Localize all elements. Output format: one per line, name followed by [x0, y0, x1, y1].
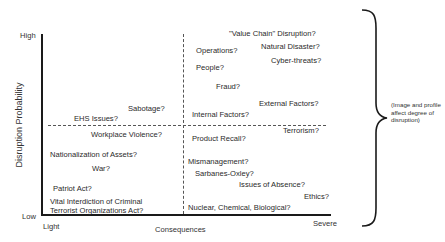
- risk-label-internal-factors: Internal Factors?: [192, 110, 249, 119]
- curly-brace-icon: [360, 8, 390, 228]
- y-axis-title: Disruption Probability: [14, 82, 24, 167]
- risk-label-natural-disaster: Natural Disaster?: [261, 42, 320, 51]
- risk-label-mismanagement: Mismanagement?: [188, 157, 248, 166]
- y-axis-high-label: High: [20, 31, 36, 40]
- x-axis-title: Consequences: [155, 225, 206, 234]
- x-axis-severe-label: Severe: [313, 219, 337, 228]
- brace-note: (Image and profile affect degree of disr…: [391, 101, 441, 124]
- risk-label-ehs-issues: EHS Issues?: [74, 114, 118, 123]
- risk-label-product-recall: Product Recall?: [192, 134, 246, 143]
- risk-label-external-factors: External Factors?: [259, 99, 319, 108]
- y-axis-low-label: Low: [22, 212, 36, 221]
- risk-label-sabotage: Sabotage?: [128, 104, 165, 113]
- risk-label-workplace-violence: Workplace Violence?: [91, 130, 162, 139]
- risk-label-vital-interdiction-line2: Terrorist Organizations Act?: [50, 206, 143, 215]
- risk-label-fraud: Fraud?: [216, 82, 240, 91]
- x-axis-light-label: Light: [43, 222, 59, 231]
- risk-label-value-chain-disruption: "Value Chain" Disruption?: [229, 29, 316, 38]
- risk-label-operations: Operations?: [196, 46, 237, 55]
- risk-label-nationalization-of-assets: Nationalization of Assets?: [50, 150, 137, 159]
- risk-label-patriot-act: Patriot Act?: [53, 184, 92, 193]
- risk-label-vital-interdiction-line1: Vital Interdiction of Criminal: [50, 197, 142, 206]
- risk-label-cyber-threats: Cyber-threats?: [271, 56, 321, 65]
- risk-label-nuclear-chemical-biological: Nuclear, Chemical, Biological?: [188, 203, 291, 212]
- risk-label-ethics: Ethics?: [304, 192, 329, 201]
- risk-label-war: War?: [92, 164, 110, 173]
- risk-label-issues-of-absence: Issues of Absence?: [239, 180, 305, 189]
- y-axis-line: [41, 34, 43, 216]
- risk-label-terrorism: Terrorism?: [283, 126, 319, 135]
- risk-label-people: People?: [196, 63, 224, 72]
- risk-label-sarbanes-oxley: Sarbanes-Oxley?: [195, 169, 254, 178]
- vertical-quadrant-divider: [183, 34, 184, 214]
